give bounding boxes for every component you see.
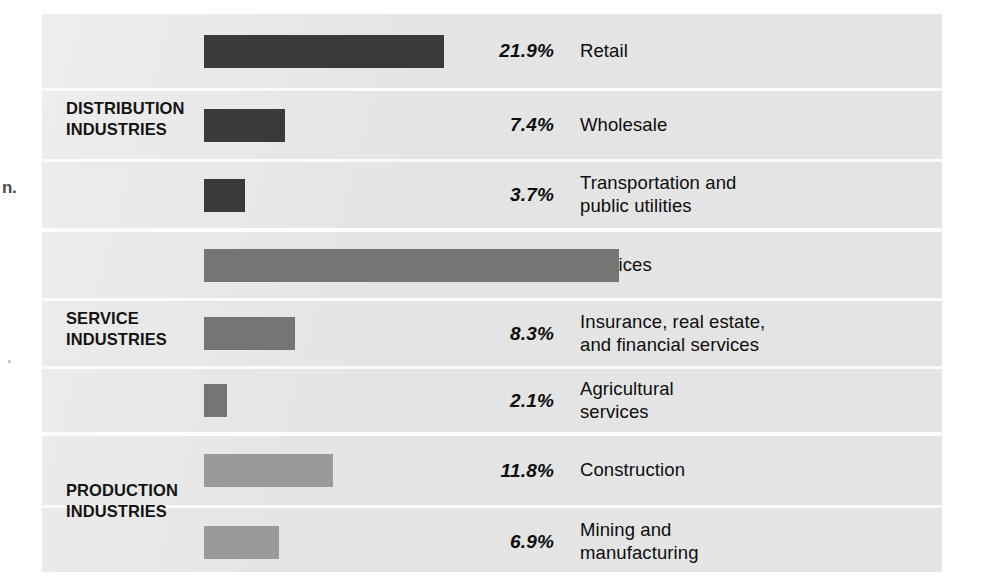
category-label-line-2: and financial services xyxy=(580,334,765,357)
page-text-bleed-artifact: n. xyxy=(2,178,16,198)
bar-agricultural-services xyxy=(204,384,227,417)
category-label-line-1: Mining and xyxy=(580,519,699,542)
chart-group-distribution-industries: DISTRIBUTION INDUSTRIES 21.9% Retail 7.4… xyxy=(42,14,942,228)
category-label-mining-manufacturing: Mining and manufacturing xyxy=(554,519,699,564)
bar-services xyxy=(204,249,619,282)
category-label-line-1: Wholesale xyxy=(580,114,667,137)
category-label-transportation: Transportation and public utilities xyxy=(554,172,736,217)
chart-row-retail: 21.9% Retail xyxy=(42,14,942,88)
bar-cell xyxy=(42,508,462,576)
chart-row-transportation: 3.7% Transportation and public utilities xyxy=(42,159,942,228)
value-label-wholesale: 7.4% xyxy=(462,114,554,136)
bar-insurance xyxy=(204,317,295,350)
chart-row-services: 37.9% Services xyxy=(42,232,942,298)
chart-row-wholesale: 7.4% Wholesale xyxy=(42,88,942,159)
category-label-retail: Retail xyxy=(554,40,628,63)
category-label-wholesale: Wholesale xyxy=(554,114,667,137)
category-label-line-2: public utilities xyxy=(580,195,736,218)
chart-row-mining-manufacturing: 6.9% Mining and manufacturing xyxy=(42,505,942,576)
category-label-line-1: Insurance, real estate, xyxy=(580,311,765,334)
bar-retail xyxy=(204,35,444,68)
category-label-line-1: Agricultural xyxy=(580,378,674,401)
bar-cell xyxy=(42,301,462,366)
bar-construction xyxy=(204,454,333,487)
bar-wholesale xyxy=(204,109,285,142)
category-label-agricultural-services: Agricultural services xyxy=(554,378,674,423)
bar-mining-manufacturing xyxy=(204,526,279,559)
category-label-line-1: Construction xyxy=(580,459,685,482)
chart-group-production-industries: PRODUCTION INDUSTRIES 11.8% Construction… xyxy=(42,432,942,576)
page-speck-artifact xyxy=(8,360,11,363)
category-label-construction: Construction xyxy=(554,459,685,482)
value-label-insurance: 8.3% xyxy=(462,323,554,345)
category-label-line-2: manufacturing xyxy=(580,542,699,565)
value-label-agricultural-services: 2.1% xyxy=(462,390,554,412)
bar-cell xyxy=(42,436,462,505)
value-label-construction: 11.8% xyxy=(462,460,554,482)
chart-row-insurance: 8.3% Insurance, real estate, and financi… xyxy=(42,298,942,366)
category-label-line-1: Retail xyxy=(580,40,628,63)
value-label-retail: 21.9% xyxy=(462,40,554,62)
bar-cell xyxy=(42,91,462,159)
chart-row-construction: 11.8% Construction xyxy=(42,436,942,505)
grouped-bar-chart: DISTRIBUTION INDUSTRIES 21.9% Retail 7.4… xyxy=(42,14,942,572)
bar-cell xyxy=(42,14,462,88)
category-label-line-2: services xyxy=(580,401,674,424)
bar-cell xyxy=(42,162,462,228)
chart-group-service-industries: SERVICE INDUSTRIES 37.9% Services 8.3% I… xyxy=(42,228,942,432)
bar-transportation xyxy=(204,179,245,212)
value-label-mining-manufacturing: 6.9% xyxy=(462,531,554,553)
bar-cell xyxy=(42,369,462,432)
value-label-transportation: 3.7% xyxy=(462,184,554,206)
category-label-insurance: Insurance, real estate, and financial se… xyxy=(554,311,765,356)
chart-row-agricultural-services: 2.1% Agricultural services xyxy=(42,366,942,432)
category-label-line-1: Transportation and xyxy=(580,172,736,195)
bar-cell xyxy=(42,232,462,298)
